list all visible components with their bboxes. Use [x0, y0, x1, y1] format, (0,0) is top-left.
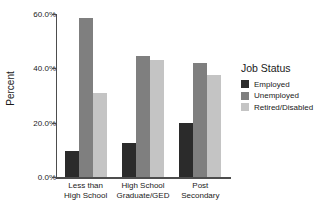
- legend-label: Retired/Disabled: [254, 103, 313, 112]
- legend-item: Retired/Disabled: [241, 102, 336, 113]
- bar-chart: Percent 0.0%20.0%40.0%60.0% Less than Hi…: [0, 0, 336, 217]
- y-axis-tick-mark: [52, 14, 56, 15]
- x-axis-label: Post Secondary: [170, 181, 230, 200]
- x-axis-line: [56, 177, 231, 179]
- y-axis-title: Percent: [2, 0, 18, 177]
- legend-swatch-icon: [241, 80, 249, 88]
- y-axis-title-text: Percent: [5, 71, 16, 105]
- legend-swatch-icon: [241, 103, 249, 111]
- bar-employed-group-1: [65, 151, 79, 177]
- y-axis-tick-mark: [52, 123, 56, 124]
- legend-item: Employed: [241, 79, 336, 90]
- y-axis-tick-label: 20.0%: [20, 118, 56, 127]
- bar-retired-disabled-group-1: [93, 93, 107, 177]
- x-axis-label: High School Graduate/GED: [113, 181, 173, 200]
- y-axis-tick-mark: [52, 68, 56, 69]
- bar-unemployed-group-3: [193, 63, 207, 177]
- plot-area: [57, 14, 229, 177]
- y-axis-tick-mark: [52, 177, 56, 178]
- bar-unemployed-group-2: [136, 56, 150, 177]
- legend-swatch-icon: [241, 92, 249, 100]
- legend-label: Employed: [254, 80, 290, 89]
- bar-employed-group-3: [179, 123, 193, 177]
- bar-retired-disabled-group-3: [207, 75, 221, 177]
- legend-items: EmployedUnemployedRetired/Disabled: [241, 79, 336, 113]
- legend-item: Unemployed: [241, 91, 336, 102]
- y-axis-tick-label: 60.0%: [20, 10, 56, 19]
- x-axis-label: Less than High School: [56, 181, 116, 200]
- y-axis-tick-label: 40.0%: [20, 64, 56, 73]
- legend-title: Job Status: [241, 62, 336, 74]
- legend: Job Status EmployedUnemployedRetired/Dis…: [241, 62, 336, 114]
- bar-employed-group-2: [122, 143, 136, 177]
- bar-retired-disabled-group-2: [150, 60, 164, 177]
- legend-label: Unemployed: [254, 91, 299, 100]
- bar-unemployed-group-1: [79, 18, 93, 177]
- y-axis-tick-label: 0.0%: [20, 173, 56, 182]
